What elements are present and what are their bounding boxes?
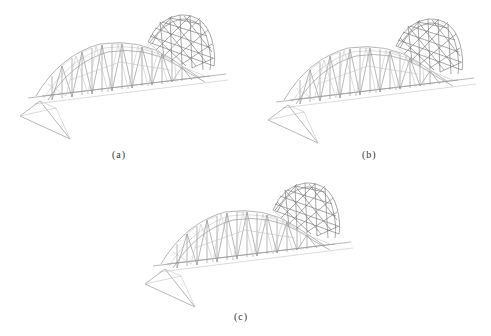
panel-c	[125, 168, 370, 313]
bridge-truss-diagram-b	[248, 4, 491, 149]
caption-a: (a)	[112, 149, 126, 160]
bridge-truss-diagram-a	[0, 0, 245, 145]
caption-c: (c)	[234, 311, 248, 322]
bridge-truss-diagram-c	[125, 168, 370, 313]
panel-a	[0, 0, 245, 145]
panel-b	[248, 4, 491, 149]
caption-b: (b)	[362, 149, 377, 160]
